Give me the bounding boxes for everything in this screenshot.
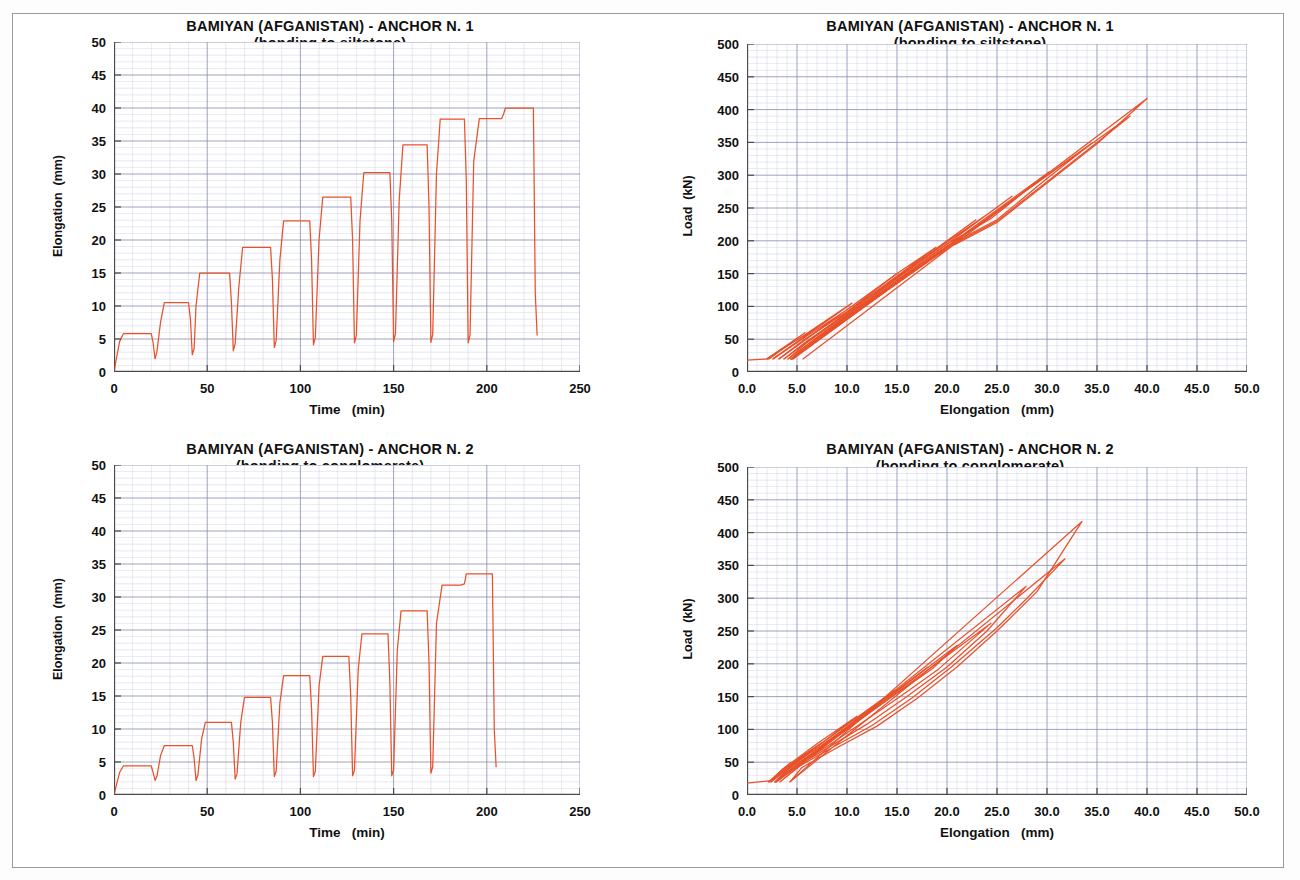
data-series-cycle-9 bbox=[791, 116, 1130, 359]
x-tick-label: 10.0 bbox=[834, 381, 859, 396]
y-tick-label: 400 bbox=[701, 525, 739, 540]
x-tick-label: 200 bbox=[476, 381, 498, 396]
x-tick-label: 15.0 bbox=[884, 381, 909, 396]
y-tick-label: 100 bbox=[701, 299, 739, 314]
y-tick-label: 40 bbox=[68, 101, 106, 116]
x-tick-label: 45.0 bbox=[1184, 804, 1209, 819]
x-axis-title-anchor-1-load: Elongation (mm) bbox=[747, 402, 1247, 417]
x-tick-label: 50.0 bbox=[1234, 381, 1259, 396]
chart-title-line1: BAMIYAN (AFGANISTAN) - ANCHOR N. 2 bbox=[30, 441, 630, 458]
x-tick-label: 100 bbox=[290, 804, 312, 819]
y-tick-label: 50 bbox=[68, 458, 106, 473]
y-tick-label: 450 bbox=[701, 492, 739, 507]
y-tick-label: 450 bbox=[701, 69, 739, 84]
x-tick-label: 30.0 bbox=[1034, 804, 1059, 819]
chart-panel-anchor-2-load: BAMIYAN (AFGANISTAN) - ANCHOR N. 2 (bond… bbox=[665, 437, 1275, 857]
y-tick-label: 50 bbox=[701, 332, 739, 347]
chart-panel-anchor-1-time: BAMIYAN (AFGANISTAN) - ANCHOR N. 1 (bond… bbox=[30, 14, 630, 434]
y-tick-label: 35 bbox=[68, 134, 106, 149]
y-tick-label: 15 bbox=[68, 689, 106, 704]
y-tick-label: 10 bbox=[68, 299, 106, 314]
y-axis-title-anchor-2-time: Elongation (mm) bbox=[51, 559, 65, 699]
y-tick-label: 15 bbox=[68, 266, 106, 281]
y-tick-label: 5 bbox=[68, 332, 106, 347]
scanned-figure-page: BAMIYAN (AFGANISTAN) - ANCHOR N. 1 (bond… bbox=[0, 0, 1300, 880]
x-tick-label: 5.0 bbox=[788, 804, 806, 819]
y-tick-label: 250 bbox=[701, 624, 739, 639]
x-tick-label: 150 bbox=[383, 804, 405, 819]
y-tick-label: 20 bbox=[68, 233, 106, 248]
y-tick-label: 25 bbox=[68, 623, 106, 638]
x-tick-label: 150 bbox=[383, 381, 405, 396]
x-tick-label: 0.0 bbox=[738, 381, 756, 396]
y-tick-label: 50 bbox=[68, 35, 106, 50]
y-axis-title-anchor-1-time: Elongation (mm) bbox=[51, 136, 65, 276]
y-tick-label: 40 bbox=[68, 524, 106, 539]
x-tick-label: 35.0 bbox=[1084, 804, 1109, 819]
x-tick-label: 25.0 bbox=[984, 381, 1009, 396]
x-tick-label: 15.0 bbox=[884, 804, 909, 819]
x-tick-label: 50 bbox=[200, 381, 214, 396]
y-tick-label: 10 bbox=[68, 722, 106, 737]
x-tick-label: 45.0 bbox=[1184, 381, 1209, 396]
y-tick-label: 150 bbox=[701, 266, 739, 281]
y-tick-label: 300 bbox=[701, 591, 739, 606]
y-tick-label: 100 bbox=[701, 722, 739, 737]
y-tick-label: 200 bbox=[701, 233, 739, 248]
y-tick-label: 150 bbox=[701, 689, 739, 704]
x-tick-label: 40.0 bbox=[1134, 381, 1159, 396]
y-tick-label: 35 bbox=[68, 557, 106, 572]
data-series-cycle-7 bbox=[776, 623, 991, 782]
y-axis-title-anchor-1-load: Load (kN) bbox=[681, 146, 695, 266]
y-tick-label: 25 bbox=[68, 200, 106, 215]
x-tick-label: 0 bbox=[110, 381, 117, 396]
y-tick-label: 20 bbox=[68, 656, 106, 671]
x-tick-label: 10.0 bbox=[834, 804, 859, 819]
x-axis-title-anchor-2-load: Elongation (mm) bbox=[747, 825, 1247, 840]
y-tick-label: 0 bbox=[68, 788, 106, 803]
x-tick-label: 35.0 bbox=[1084, 381, 1109, 396]
y-tick-label: 500 bbox=[701, 460, 739, 475]
data-series-cycle-10 bbox=[790, 521, 1082, 781]
y-axis-title-anchor-2-load: Load (kN) bbox=[681, 569, 695, 689]
chart-panel-anchor-1-load: BAMIYAN (AFGANISTAN) - ANCHOR N. 1 (bond… bbox=[665, 14, 1275, 434]
x-tick-label: 250 bbox=[569, 381, 591, 396]
data-series-cycle-3 bbox=[773, 274, 897, 359]
x-tick-label: 5.0 bbox=[788, 381, 806, 396]
x-tick-label: 25.0 bbox=[984, 804, 1009, 819]
y-tick-label: 400 bbox=[701, 102, 739, 117]
y-tick-label: 45 bbox=[68, 491, 106, 506]
y-tick-label: 0 bbox=[68, 365, 106, 380]
chart-panel-anchor-2-time: BAMIYAN (AFGANISTAN) - ANCHOR N. 2 (bond… bbox=[30, 437, 630, 857]
x-axis-title-anchor-2-time: Time (min) bbox=[114, 825, 580, 840]
y-tick-label: 30 bbox=[68, 590, 106, 605]
x-tick-label: 40.0 bbox=[1134, 804, 1159, 819]
y-tick-label: 50 bbox=[701, 755, 739, 770]
x-tick-label: 30.0 bbox=[1034, 381, 1059, 396]
chart-title-line1: BAMIYAN (AFGANISTAN) - ANCHOR N. 2 bbox=[665, 441, 1275, 458]
x-tick-label: 100 bbox=[290, 381, 312, 396]
y-tick-label: 0 bbox=[701, 788, 739, 803]
y-tick-label: 200 bbox=[701, 656, 739, 671]
plot-area-anchor-2-load bbox=[747, 467, 1247, 795]
y-tick-label: 350 bbox=[701, 558, 739, 573]
x-tick-label: 250 bbox=[569, 804, 591, 819]
y-tick-label: 5 bbox=[68, 755, 106, 770]
plot-area-anchor-1-load bbox=[747, 44, 1247, 372]
y-tick-label: 0 bbox=[701, 365, 739, 380]
x-tick-label: 0.0 bbox=[738, 804, 756, 819]
x-tick-label: 200 bbox=[476, 804, 498, 819]
y-tick-label: 350 bbox=[701, 135, 739, 150]
y-tick-label: 500 bbox=[701, 37, 739, 52]
plot-area-anchor-2-time bbox=[114, 465, 580, 795]
chart-title-line1: BAMIYAN (AFGANISTAN) - ANCHOR N. 1 bbox=[665, 18, 1275, 35]
x-tick-label: 50.0 bbox=[1234, 804, 1259, 819]
chart-title-line1: BAMIYAN (AFGANISTAN) - ANCHOR N. 1 bbox=[30, 18, 630, 35]
plot-area-anchor-1-time bbox=[114, 42, 580, 372]
x-tick-label: 0 bbox=[110, 804, 117, 819]
x-axis-title-anchor-1-time: Time (min) bbox=[114, 402, 580, 417]
x-tick-label: 50 bbox=[200, 804, 214, 819]
y-tick-label: 45 bbox=[68, 68, 106, 83]
y-tick-label: 250 bbox=[701, 201, 739, 216]
x-tick-label: 20.0 bbox=[934, 804, 959, 819]
